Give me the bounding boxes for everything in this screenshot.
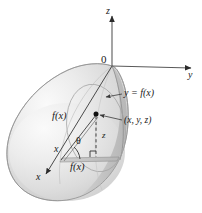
figure-canvas xyxy=(0,0,202,213)
math-figure-solid-of-revolution: z 0 y y = f(x) (x, y, z) f(x) f(x) θ z x… xyxy=(0,0,202,213)
x-coordinate-label: x xyxy=(54,144,58,154)
sample-point-dot xyxy=(94,112,99,117)
solid-of-revolution-body xyxy=(7,64,132,201)
y-axis-line xyxy=(112,66,191,68)
curve-equation-label: y = f(x) xyxy=(124,88,154,98)
base-plate xyxy=(60,157,119,162)
y-axis-label: y xyxy=(188,70,192,80)
angle-label-theta: θ xyxy=(76,136,81,146)
height-label-z: z xyxy=(102,131,106,140)
x-axis-label: x xyxy=(36,172,40,182)
radius-label-lower: f(x) xyxy=(70,162,85,173)
radius-label-upper: f(x) xyxy=(52,111,67,122)
origin-label: 0 xyxy=(101,54,107,65)
point-coordinates-label: (x, y, z) xyxy=(124,116,151,126)
z-axis-label: z xyxy=(106,6,110,16)
